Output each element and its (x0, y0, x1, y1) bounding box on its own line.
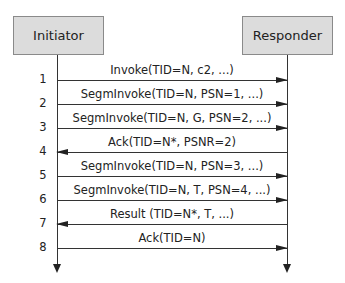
message-arrow: SegmInvoke(TID=N, T, PSN=4, ...) (57, 200, 287, 201)
step-number: 7 (38, 216, 48, 230)
arrowhead-right-icon (276, 245, 288, 251)
message-label: Result (TID=N*, T, ...) (57, 207, 287, 221)
message-arrow: Invoke(TID=N, c2, ...) (57, 80, 287, 81)
actor-responder-label: Responder (253, 28, 322, 43)
arrowhead-right-icon (276, 125, 288, 131)
arrowhead-right-icon (276, 197, 288, 203)
message-label: SegmInvoke(TID=N, PSN=1, ...) (57, 87, 287, 101)
responder-lifeline (287, 55, 288, 265)
message-label: SegmInvoke(TID=N, T, PSN=4, ...) (57, 183, 287, 197)
message-arrow: SegmInvoke(TID=N, G, PSN=2, ...) (57, 128, 287, 129)
step-number: 8 (38, 240, 48, 254)
message-arrow: Ack(TID=N*, PSNR=2) (57, 152, 287, 153)
message-label: Ack(TID=N) (57, 231, 287, 245)
message-arrow: Result (TID=N*, T, ...) (57, 224, 287, 225)
step-number: 1 (38, 72, 48, 86)
arrowhead-left-icon (56, 221, 68, 227)
message-arrow: SegmInvoke(TID=N, PSN=3, ...) (57, 176, 287, 177)
initiator-lifeline-arrow-icon (53, 264, 61, 273)
arrowhead-right-icon (276, 173, 288, 179)
actor-initiator: Initiator (13, 16, 104, 55)
message-label: SegmInvoke(TID=N, PSN=3, ...) (57, 159, 287, 173)
arrowhead-right-icon (276, 101, 288, 107)
actor-responder: Responder (242, 16, 333, 55)
step-number: 3 (38, 120, 48, 134)
message-arrow: SegmInvoke(TID=N, PSN=1, ...) (57, 104, 287, 105)
step-number: 2 (38, 96, 48, 110)
message-label: Ack(TID=N*, PSNR=2) (57, 135, 287, 149)
arrowhead-left-icon (56, 149, 68, 155)
step-number: 5 (38, 168, 48, 182)
step-number: 4 (38, 144, 48, 158)
actor-initiator-label: Initiator (33, 28, 84, 43)
message-label: Invoke(TID=N, c2, ...) (57, 63, 287, 77)
responder-lifeline-arrow-icon (283, 264, 291, 273)
message-label: SegmInvoke(TID=N, G, PSN=2, ...) (57, 111, 287, 125)
message-arrow: Ack(TID=N) (57, 248, 287, 249)
arrowhead-right-icon (276, 77, 288, 83)
step-number: 6 (38, 192, 48, 206)
